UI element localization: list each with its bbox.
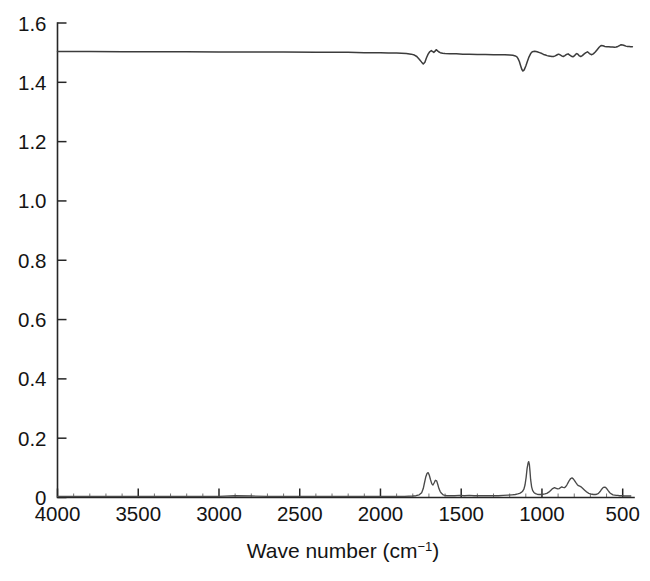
chart-canvas: 00.20.40.60.81.01.21.41.6 40003500300025… — [0, 0, 650, 581]
y-tick-label: 1.0 — [18, 189, 47, 212]
x-axis-tick-labels: 4000350030002500200015001000500 — [35, 502, 640, 525]
absorbance-trace — [58, 462, 631, 497]
y-tick-label: 0.6 — [18, 308, 47, 331]
axis-frame — [58, 23, 635, 498]
y-axis-major-ticks — [58, 23, 67, 498]
refractive-index-trace — [58, 45, 633, 71]
y-tick-label: 0.8 — [18, 249, 47, 272]
x-axis-title-main: Wave number (cm — [247, 539, 418, 562]
y-tick-label: 1.2 — [18, 130, 47, 153]
x-tick-label: 2500 — [277, 502, 323, 525]
y-axis-tick-labels: 00.20.40.60.81.01.21.41.6 — [18, 12, 47, 510]
y-tick-label: 1.4 — [18, 71, 47, 94]
y-tick-label: 0.4 — [18, 367, 47, 390]
x-tick-label: 1000 — [519, 502, 565, 525]
y-tick-label: 1.6 — [18, 12, 47, 35]
x-tick-label: 3500 — [115, 502, 161, 525]
ir-spectrum-figure: 00.20.40.60.81.01.21.41.6 40003500300025… — [0, 0, 650, 581]
x-tick-label: 3000 — [196, 502, 242, 525]
x-tick-label: 2000 — [358, 502, 404, 525]
x-tick-label: 500 — [606, 502, 640, 525]
x-tick-label: 4000 — [35, 502, 81, 525]
x-tick-label: 1500 — [438, 502, 484, 525]
x-axis-title: Wave number (cm−1) — [247, 539, 440, 562]
y-tick-label: 0.2 — [18, 427, 47, 450]
